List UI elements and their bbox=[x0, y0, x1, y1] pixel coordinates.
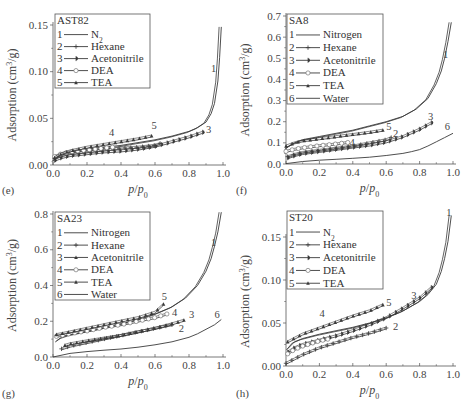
x-tick-label: 1.0 bbox=[446, 368, 460, 380]
open-circle-marker-icon bbox=[140, 318, 144, 322]
open-circle-marker-icon bbox=[326, 337, 330, 341]
chart-panel-h: 0.00.20.40.60.81.00.000.050.100.15p/p0Ad… bbox=[236, 207, 460, 401]
open-circle-marker-icon bbox=[306, 71, 310, 75]
open-circle-marker-icon bbox=[296, 146, 300, 150]
legend-label: Acetonitrile bbox=[323, 251, 376, 263]
legend-label: Nitrogen bbox=[91, 226, 131, 238]
chart-panel-f: 0.00.20.40.60.81.00.00.10.20.30.40.50.60… bbox=[236, 10, 460, 199]
legend-label: TEA bbox=[91, 276, 112, 288]
x-tick-label: 0.8 bbox=[182, 167, 196, 179]
open-circle-marker-icon bbox=[306, 268, 310, 272]
curve-number-label: 2 bbox=[393, 321, 398, 332]
y-tick-label: 0.8 bbox=[34, 208, 48, 220]
y-tick-label: 0.1 bbox=[267, 136, 281, 148]
triangle-marker-icon bbox=[162, 302, 166, 306]
x-tick-label: 0.2 bbox=[313, 368, 327, 380]
legend-label: Acetonitrile bbox=[91, 52, 144, 64]
svg-text:3: 3 bbox=[289, 54, 295, 66]
x-tick-label: 0.4 bbox=[114, 167, 128, 179]
legend-label: TEA bbox=[323, 277, 344, 289]
y-tick-label: 0.4 bbox=[267, 73, 281, 85]
y-tick-label: 0.2 bbox=[267, 115, 281, 127]
y-axis-label: Adsorption (cm3/g) bbox=[5, 49, 20, 142]
svg-text:2: 2 bbox=[289, 238, 295, 250]
panel-letter: (f) bbox=[236, 184, 247, 197]
svg-text:4: 4 bbox=[57, 263, 63, 275]
open-circle-marker-icon bbox=[110, 145, 114, 149]
svg-text:6: 6 bbox=[289, 92, 295, 104]
svg-text:1: 1 bbox=[289, 28, 295, 40]
y-tick-label: 0.2 bbox=[34, 315, 48, 327]
panel-letter: (g) bbox=[2, 387, 15, 400]
svg-text:2: 2 bbox=[57, 40, 63, 52]
open-circle-marker-icon bbox=[146, 317, 150, 321]
y-axis-label: Adsorption (cm3/g) bbox=[238, 255, 253, 348]
curve-number-label: 4 bbox=[109, 127, 115, 138]
x-tick-label: 0.6 bbox=[148, 359, 162, 371]
open-circle-marker-icon bbox=[340, 141, 344, 145]
x-tick-label: 0.4 bbox=[114, 359, 128, 371]
svg-text:5: 5 bbox=[289, 277, 295, 289]
curve-number-label: 5 bbox=[152, 120, 157, 131]
svg-text:3: 3 bbox=[57, 251, 63, 263]
curve-number-label: 6 bbox=[445, 121, 450, 132]
triangle-marker-icon bbox=[339, 134, 343, 138]
open-circle-marker-icon bbox=[128, 321, 132, 325]
curve-number-label: 1 bbox=[211, 63, 216, 74]
triangle-marker-icon bbox=[357, 132, 361, 136]
y-tick-label: 0.6 bbox=[267, 31, 281, 43]
x-axis-label: p/p0 bbox=[127, 374, 147, 392]
svg-text:4: 4 bbox=[57, 64, 63, 76]
svg-text:4: 4 bbox=[289, 264, 295, 276]
open-circle-marker-icon bbox=[315, 144, 319, 148]
curve-number-label: 5 bbox=[386, 297, 391, 308]
open-circle-marker-icon bbox=[159, 314, 163, 318]
legend-label: Nitrogen bbox=[323, 28, 363, 40]
open-circle-marker-icon bbox=[306, 342, 310, 346]
y-tick-label: 0.15 bbox=[29, 19, 49, 31]
x-tick-label: 0.0 bbox=[279, 166, 293, 178]
curve-number-label: 2 bbox=[393, 128, 398, 139]
svg-text:5: 5 bbox=[289, 79, 295, 91]
legend-label: TEA bbox=[323, 79, 344, 91]
triangle-marker-icon bbox=[381, 128, 385, 132]
curve-number-label: 1 bbox=[211, 237, 216, 248]
triangle-marker-icon bbox=[182, 318, 186, 322]
y-tick-label: 0.00 bbox=[29, 159, 49, 171]
triangle-marker-icon bbox=[351, 132, 355, 136]
x-tick-label: 1.0 bbox=[446, 166, 460, 178]
svg-text:3: 3 bbox=[57, 52, 63, 64]
curve-number-label: 2 bbox=[179, 323, 184, 334]
svg-text:5: 5 bbox=[57, 76, 63, 88]
legend-label: DEA bbox=[91, 64, 114, 76]
series-acetonitrile bbox=[55, 130, 205, 163]
svg-text:1: 1 bbox=[57, 28, 63, 40]
y-tick-label: 0.4 bbox=[34, 279, 48, 291]
svg-text:4: 4 bbox=[289, 66, 295, 78]
y-axis-label: Adsorption (cm3/g) bbox=[238, 44, 253, 137]
legend-title: SA8 bbox=[289, 14, 309, 26]
x-axis-label: p/p0 bbox=[359, 383, 379, 401]
curve-number-label: 3 bbox=[428, 111, 433, 122]
open-circle-marker-icon bbox=[302, 145, 306, 149]
curve-number-label: 5 bbox=[162, 291, 167, 302]
y-tick-label: 0.5 bbox=[267, 52, 281, 64]
x-tick-label: 0.2 bbox=[313, 166, 327, 178]
panel-letter: (h) bbox=[236, 387, 249, 400]
open-circle-marker-icon bbox=[301, 344, 305, 348]
legend-label: Hexane bbox=[91, 40, 125, 52]
legend-title: AST82 bbox=[57, 14, 89, 26]
x-tick-label: 1.0 bbox=[216, 167, 230, 179]
legend-title: SA23 bbox=[57, 212, 83, 224]
open-circle-marker-icon bbox=[286, 352, 290, 356]
open-circle-marker-icon bbox=[311, 341, 315, 345]
y-tick-label: 0.7 bbox=[267, 10, 281, 22]
legend-label: DEA bbox=[323, 66, 346, 78]
y-tick-label: 0.15 bbox=[262, 231, 282, 243]
legend-label: Hexane bbox=[91, 239, 125, 251]
chart-panel-g: 0.00.20.40.60.81.00.00.20.40.60.8p/p0Ads… bbox=[2, 208, 230, 401]
curve-number-label: 4 bbox=[349, 137, 355, 148]
x-tick-label: 0.2 bbox=[80, 359, 94, 371]
legend-label: Hexane bbox=[323, 238, 357, 250]
x-tick-label: 0.6 bbox=[379, 166, 393, 178]
